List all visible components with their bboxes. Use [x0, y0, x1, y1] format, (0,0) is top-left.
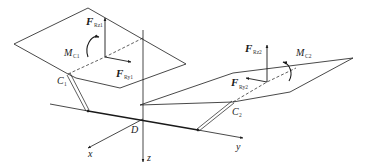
force-ry1-arrow	[105, 57, 131, 62]
svg-text:F: F	[85, 15, 94, 27]
svg-text:C1: C1	[73, 53, 80, 59]
svg-text:1: 1	[64, 81, 67, 87]
svg-text:Ry1: Ry1	[124, 74, 133, 80]
y-axis	[198, 130, 243, 138]
label-f-rz1: F Rz1	[85, 15, 103, 28]
svg-text:2: 2	[239, 112, 242, 118]
svg-text:F: F	[115, 67, 124, 79]
label-f-ry1: F Ry1	[115, 67, 133, 80]
svg-text:Ry2: Ry2	[239, 84, 248, 90]
label-origin-d: D	[130, 124, 139, 135]
moment-mc2-arrow	[283, 62, 291, 81]
svg-text:C: C	[57, 75, 64, 86]
label-y-axis: y	[235, 141, 241, 152]
label-c1: C 1	[57, 75, 67, 87]
svg-text:F: F	[244, 42, 253, 54]
force-ry2-arrow	[246, 78, 267, 82]
label-z-axis: z	[146, 152, 151, 163]
free-body-diagram: F Rz1 F Ry1 M C1 C 1 F Rz2 F Ry2 M C2 C …	[0, 0, 372, 168]
label-f-rz2: F Rz2	[244, 42, 262, 55]
right-plane-edge-left	[140, 73, 233, 105]
y-axis-base-line	[50, 104, 88, 111]
label-x-axis: x	[87, 148, 93, 159]
svg-text:Rz2: Rz2	[253, 49, 262, 55]
left-plane-edge-lower-left	[14, 44, 68, 74]
svg-text:M: M	[295, 47, 305, 58]
left-plane	[14, 8, 186, 88]
label-f-ry2: F Ry2	[230, 76, 248, 90]
left-plane-edge-top-right	[88, 8, 186, 64]
moment-mc1-arrow	[87, 37, 99, 57]
svg-text:C2: C2	[305, 53, 312, 59]
left-plane-edge-top-left	[14, 8, 88, 44]
svg-text:M: M	[63, 47, 73, 58]
svg-text:F: F	[230, 76, 239, 88]
right-plane	[140, 58, 353, 105]
svg-text:C: C	[232, 106, 239, 117]
label-m-c2: M C2	[295, 47, 312, 59]
right-plane-edge-top	[233, 58, 353, 73]
rod-right	[197, 101, 234, 131]
right-plane-edge-bottom	[140, 58, 353, 105]
svg-text:Rz1: Rz1	[94, 22, 103, 28]
label-m-c1: M C1	[63, 47, 80, 59]
label-c2: C 2	[232, 106, 242, 118]
